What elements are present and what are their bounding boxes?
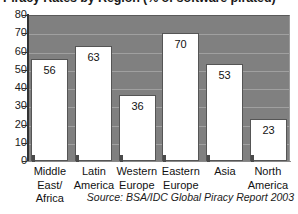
bar-value-label: 36 (120, 100, 155, 112)
bar: 36 (119, 95, 156, 161)
y-axis-tick-mark (22, 143, 27, 144)
bar-value-label: 63 (76, 51, 111, 63)
x-axis-category-label: Middle East/ Africa (26, 165, 74, 206)
x-axis-category-label: Asia (201, 165, 249, 179)
x-axis-tick-mark (251, 155, 254, 162)
x-axis-tick-mark (207, 155, 210, 162)
y-axis-tick-mark (22, 125, 27, 126)
chart-title-clipped: Piracy Rates by Region (% of software pi… (0, 0, 298, 7)
x-axis-category-label: Western Europe (113, 165, 161, 192)
gridline (28, 53, 289, 54)
x-axis-category-label: Latin America (70, 165, 118, 192)
y-axis-tick-mark (22, 33, 27, 34)
chart-screenshot: Piracy Rates by Region (% of software pi… (0, 0, 298, 214)
x-axis-category-label: North America (244, 165, 292, 192)
bar: 70 (162, 33, 199, 161)
source-annotation: Source: BSA/IDC Global Piracy Report 200… (87, 191, 294, 203)
y-axis-labels: 80706050403020100 (0, 0, 27, 214)
x-axis-tick-mark (32, 155, 35, 162)
bar: 23 (250, 119, 287, 161)
y-axis-tick-mark (22, 70, 27, 71)
y-axis-line (27, 14, 29, 162)
chart-title: Piracy Rates by Region (% of software pi… (3, 0, 276, 5)
y-axis-tick-mark (22, 106, 27, 107)
bar: 53 (206, 64, 243, 161)
y-axis-tick-mark (22, 88, 27, 89)
bar-value-label: 56 (32, 64, 67, 76)
bar-value-label: 53 (207, 69, 242, 81)
bar-value-label: 23 (251, 124, 286, 136)
bar: 63 (75, 46, 112, 161)
gridline (28, 34, 289, 35)
x-axis-tick-mark (76, 155, 79, 162)
x-axis-tick-mark (163, 155, 166, 162)
x-axis-tick-mark (120, 155, 123, 162)
y-axis-tick-mark (22, 161, 27, 162)
bar-value-label: 70 (163, 38, 198, 50)
y-axis-tick-mark (22, 15, 27, 16)
x-axis-category-label: Eastern Europe (157, 165, 205, 192)
bar: 56 (31, 59, 68, 161)
y-axis-tick-mark (22, 52, 27, 53)
